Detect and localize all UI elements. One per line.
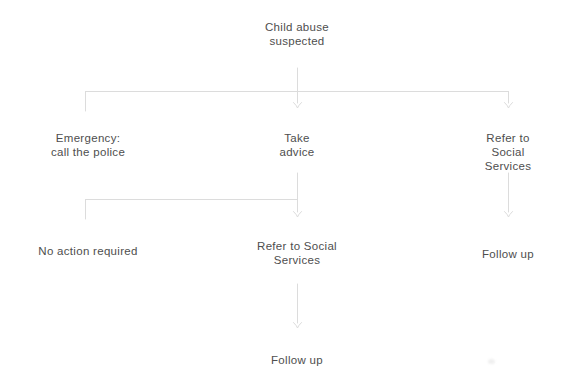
flowchart-canvas: Child abuse suspected Emergency: call th… <box>0 0 580 384</box>
scan-smudge-artifact <box>488 359 495 364</box>
node-refer-social-services-right: Refer to Social Services <box>472 131 544 173</box>
node-take-advice: Take advice <box>279 131 314 159</box>
node-child-abuse-suspected: Child abuse suspected <box>265 20 329 48</box>
connector-lines <box>0 0 580 384</box>
node-no-action-required: No action required <box>38 244 137 258</box>
node-refer-social-services-mid: Refer to Social Services <box>257 239 337 267</box>
node-emergency-call-police: Emergency: call the police <box>51 131 125 159</box>
node-follow-up-right: Follow up <box>482 247 534 261</box>
node-follow-up-bottom: Follow up <box>271 353 323 367</box>
